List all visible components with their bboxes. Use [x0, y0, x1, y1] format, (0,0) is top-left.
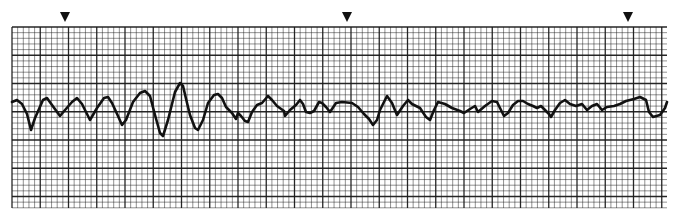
ecg-strip	[0, 0, 678, 216]
